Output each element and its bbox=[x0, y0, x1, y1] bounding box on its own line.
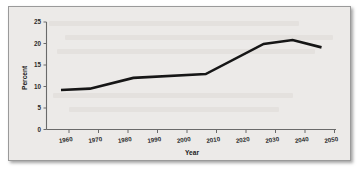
y-tick-label: 0 bbox=[37, 126, 41, 133]
x-tick-label: 2010 bbox=[206, 135, 221, 144]
y-tick-label: 10 bbox=[34, 83, 42, 90]
chart-figure-panel: 0 5 10 15 20 25 Percent 1960 bbox=[8, 6, 351, 161]
y-tick-label: 15 bbox=[34, 61, 42, 68]
x-tick-label: 2030 bbox=[265, 135, 280, 144]
x-tick-label: 1990 bbox=[147, 135, 162, 144]
y-tick-label: 5 bbox=[37, 104, 41, 111]
x-tick-label: 1970 bbox=[88, 135, 103, 144]
y-axis-title: Percent bbox=[21, 65, 28, 90]
x-tick-label: 2040 bbox=[294, 135, 309, 144]
x-tick-label: 2000 bbox=[176, 135, 191, 144]
x-tick-label: 2050 bbox=[324, 135, 339, 144]
x-tick-label: 1960 bbox=[58, 135, 73, 144]
data-series-line bbox=[61, 40, 322, 90]
line-chart-plot: 0 5 10 15 20 25 Percent 1960 bbox=[9, 7, 351, 161]
x-tick-label: 2020 bbox=[235, 135, 250, 144]
x-axis-title: Year bbox=[185, 149, 199, 156]
screenshot-root: 0 5 10 15 20 25 Percent 1960 bbox=[0, 0, 363, 181]
y-tick-label: 20 bbox=[34, 40, 42, 47]
x-tick-label: 1980 bbox=[117, 135, 132, 144]
y-tick-label: 25 bbox=[34, 18, 42, 25]
